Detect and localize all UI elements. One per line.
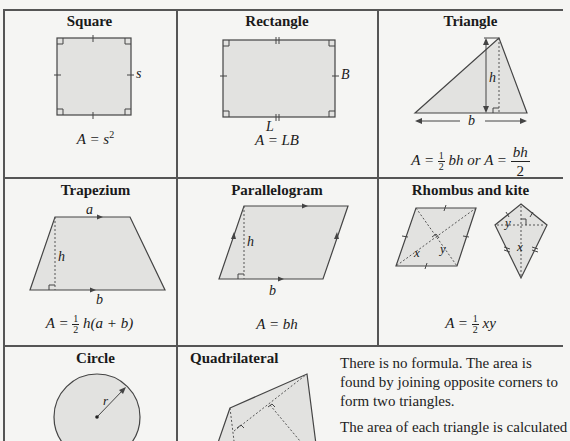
rhombus-kite-formula: A = 12 xy <box>378 314 563 335</box>
kite-y-label: y <box>505 215 511 231</box>
quadrilateral-diagram <box>0 0 320 441</box>
kite-x-label: x <box>517 239 523 255</box>
quadrilateral-paragraph-2: The area of each triangle is calculated <box>340 418 570 437</box>
quadrilateral-paragraph-1: There is no formula. The area is found b… <box>340 354 562 411</box>
rhombus-x-label: x <box>414 245 420 261</box>
rhombus-y-label: y <box>440 241 446 257</box>
